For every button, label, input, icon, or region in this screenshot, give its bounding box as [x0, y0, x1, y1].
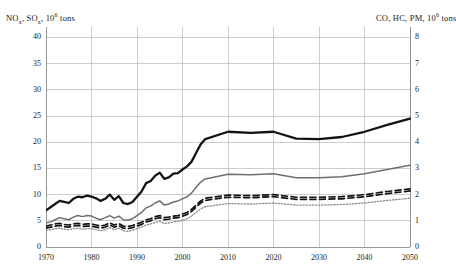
y-tick-left-35: 35	[19, 59, 41, 68]
y-tick-left-40: 40	[19, 32, 41, 41]
y-tick-left-20: 20	[19, 137, 41, 146]
y-tick-right-0: 0	[415, 242, 437, 251]
y-tick-right-5: 5	[415, 111, 437, 120]
y-tick-left-30: 30	[19, 85, 41, 94]
y-axis-left-label: NOx, SOx, 106 tons	[6, 12, 75, 25]
y-tick-left-5: 5	[19, 216, 41, 225]
y-tick-right-7: 7	[415, 59, 437, 68]
y-tick-left-0: 0	[19, 242, 41, 251]
x-tick-2010: 2010	[208, 253, 248, 262]
x-tick-2050: 2050	[390, 253, 430, 262]
y-axis-right-label: CO, HC, PM, 106 tons	[376, 12, 456, 23]
x-tick-2000: 2000	[163, 253, 203, 262]
y-tick-right-3: 3	[415, 163, 437, 172]
y-tick-right-1: 1	[415, 216, 437, 225]
x-tick-1970: 1970	[26, 253, 66, 262]
plot-area	[46, 27, 410, 247]
y-tick-right-8: 8	[415, 32, 437, 41]
x-tick-1990: 1990	[117, 253, 157, 262]
x-tick-2020: 2020	[254, 253, 294, 262]
y-tick-left-10: 10	[19, 190, 41, 199]
x-tick-2040: 2040	[345, 253, 385, 262]
y-tick-right-4: 4	[415, 137, 437, 146]
x-tick-2030: 2030	[299, 253, 339, 262]
y-tick-left-25: 25	[19, 111, 41, 120]
y-tick-left-15: 15	[19, 163, 41, 172]
y-tick-right-2: 2	[415, 190, 437, 199]
y-tick-right-6: 6	[415, 85, 437, 94]
chart-canvas	[46, 27, 411, 248]
x-tick-1980: 1980	[72, 253, 112, 262]
